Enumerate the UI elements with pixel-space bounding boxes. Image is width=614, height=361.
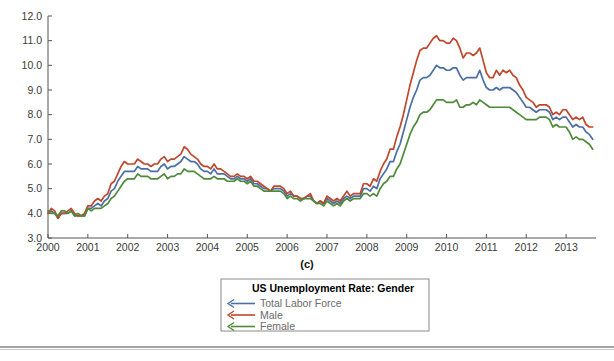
y-tick-label: 4.0: [27, 207, 42, 219]
x-tick-label: 2004: [196, 241, 220, 253]
x-tick-label: 2007: [315, 241, 339, 253]
x-tick-label: 2008: [355, 241, 379, 253]
x-tick-label: 2010: [435, 241, 459, 253]
panel-caption: (c): [300, 258, 314, 270]
x-tick-label: 2012: [515, 241, 539, 253]
legend-title: US Unemployment Rate: Gender: [252, 282, 414, 294]
unemployment-line-chart: 3.04.05.06.07.08.09.010.011.012.0 200020…: [0, 0, 614, 361]
y-tick-label: 12.0: [22, 10, 43, 22]
y-tick-label: 5.0: [27, 182, 42, 194]
x-tick-label: 2013: [554, 241, 578, 253]
x-tick-label: 2000: [36, 241, 60, 253]
x-tick-label: 2006: [275, 241, 299, 253]
figure-panel: 3.04.05.06.07.08.09.010.011.012.0 200020…: [0, 0, 614, 361]
legend-label-female: Female: [260, 320, 295, 332]
y-tick-label: 10.0: [22, 59, 43, 71]
y-tick-label: 6.0: [27, 158, 42, 170]
chart-legend: US Unemployment Rate: GenderTotal Labor …: [221, 279, 429, 332]
legend-label-total-labor-force: Total Labor Force: [260, 297, 342, 309]
x-tick-label: 2003: [156, 241, 180, 253]
x-tick-label: 2009: [395, 241, 419, 253]
y-tick-label: 11.0: [22, 34, 42, 46]
legend-label-male: Male: [260, 309, 283, 321]
x-tick-label: 2001: [76, 241, 100, 253]
y-tick-label: 8.0: [27, 108, 42, 120]
y-tick-label: 9.0: [27, 84, 42, 96]
y-tick-label: 7.0: [27, 133, 42, 145]
x-tick-label: 2011: [475, 241, 498, 253]
x-tick-label: 2002: [116, 241, 140, 253]
x-tick-label: 2005: [236, 241, 260, 253]
